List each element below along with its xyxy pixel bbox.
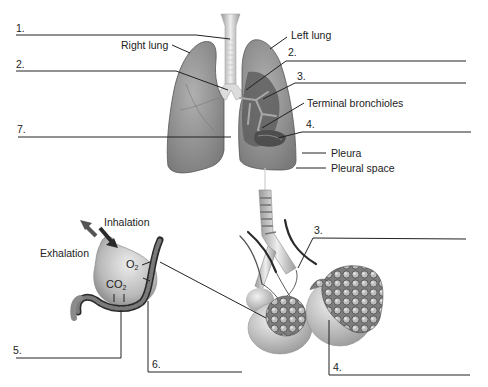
label-o2: O2	[126, 258, 138, 271]
label-co2: CO2	[106, 278, 126, 291]
respiratory-diagram: 1. 2. 2. 3. 4. 7. 5. 6. 3. 4. Right lung…	[0, 0, 488, 387]
blank-number-3-top: 3.	[297, 70, 306, 82]
label-pleural-space: Pleural space	[331, 162, 395, 174]
blank-number-1: 1.	[16, 22, 25, 34]
right-lung	[167, 42, 224, 173]
bronchiole	[255, 190, 296, 290]
blank-number-2-right: 2.	[288, 46, 297, 58]
diagram-artwork	[0, 0, 488, 387]
label-inhalation: Inhalation	[104, 216, 150, 228]
blank-number-4-top: 4.	[306, 118, 315, 130]
label-left-lung: Left lung	[291, 29, 331, 41]
blank-number-5: 5.	[13, 344, 22, 356]
label-right-lung: Right lung	[121, 39, 168, 51]
label-pleura: Pleura	[331, 147, 361, 159]
alveolus-sac	[73, 220, 160, 318]
blank-number-4-bottom: 4.	[333, 361, 342, 373]
alveolar-cluster-large	[306, 266, 383, 346]
blank-number-6: 6.	[152, 358, 161, 370]
blank-number-2-left: 2.	[16, 58, 25, 70]
label-terminal-bronchioles: Terminal bronchioles	[307, 97, 403, 109]
blank-number-7: 7.	[17, 123, 26, 135]
blank-number-3-bottom: 3.	[314, 224, 323, 236]
label-exhalation: Exhalation	[40, 247, 89, 259]
alveolar-cluster-small	[246, 288, 312, 354]
